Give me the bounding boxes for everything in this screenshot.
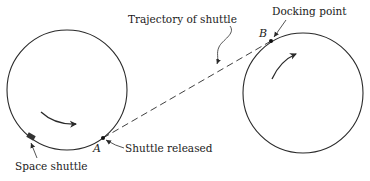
left-rotation-arrow-icon [41, 112, 76, 124]
cutoff-text-remnant [110, 0, 370, 2]
space-shuttle-label: Space shuttle [15, 161, 88, 172]
point-a-dot [101, 136, 105, 140]
docking-point-label: Docking point [272, 6, 347, 17]
point-a-label: A [93, 143, 101, 154]
shuttle-released-leader-arrow [106, 140, 124, 148]
point-b-dot [269, 39, 273, 43]
trajectory-dashed-line [103, 41, 271, 138]
right-orbit-circle [243, 33, 363, 153]
point-b-label: B [259, 28, 267, 39]
space-shuttle-leader-arrow [31, 143, 37, 158]
right-rotation-arrow-icon [272, 54, 296, 79]
left-orbit-circle [7, 30, 127, 150]
shuttle-released-label: Shuttle released [125, 143, 212, 154]
space-shuttle-icon [26, 132, 35, 140]
trajectory-leader-arrow [217, 26, 231, 64]
docking-point-leader-arrow [274, 20, 286, 37]
trajectory-label: Trajectory of shuttle [128, 14, 237, 25]
diagram-canvas: Trajectory of shuttle Docking point B A … [0, 0, 370, 181]
